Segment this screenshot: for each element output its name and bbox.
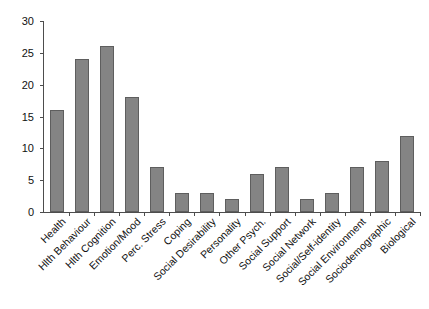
y-axis-tick-label: 0	[0, 207, 34, 218]
y-axis-tick-label: 15	[0, 112, 34, 123]
x-axis-tick	[219, 212, 220, 216]
x-axis-tick	[420, 212, 421, 216]
bar	[325, 193, 339, 212]
x-axis-tick	[119, 212, 120, 216]
bar	[175, 193, 189, 212]
x-axis-tick	[395, 212, 396, 216]
x-axis-tick	[94, 212, 95, 216]
x-axis-tick	[169, 212, 170, 216]
bar	[375, 161, 389, 212]
x-axis-tick	[194, 212, 195, 216]
bar	[400, 136, 414, 212]
x-axis-tick	[370, 212, 371, 216]
x-axis-tick	[270, 212, 271, 216]
x-axis-tick	[345, 212, 346, 216]
bar	[350, 167, 364, 212]
bar	[300, 199, 314, 212]
y-axis-tick	[40, 212, 44, 213]
bar-chart-figure: 051015202530 HealthHlth BehaviourHlth Co…	[0, 0, 429, 309]
bar	[50, 110, 64, 212]
y-axis-tick-label: 10	[0, 143, 34, 154]
bar	[225, 199, 239, 212]
bar	[125, 97, 139, 212]
bar	[250, 174, 264, 212]
bar	[100, 46, 114, 212]
bar	[150, 167, 164, 212]
y-axis-tick-label: 25	[0, 48, 34, 59]
x-axis-tick	[320, 212, 321, 216]
x-axis-tick	[69, 212, 70, 216]
x-axis-tick	[295, 212, 296, 216]
x-axis-tick	[144, 212, 145, 216]
bar	[200, 193, 214, 212]
plot-area	[44, 21, 420, 212]
y-axis-tick-label: 20	[0, 80, 34, 91]
x-axis-line	[44, 212, 421, 213]
y-axis-tick-label: 30	[0, 16, 34, 27]
bar	[75, 59, 89, 212]
x-axis-tick	[245, 212, 246, 216]
bar	[275, 167, 289, 212]
y-axis-tick-label: 5	[0, 175, 34, 186]
